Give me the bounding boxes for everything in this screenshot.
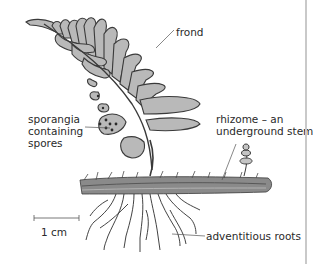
label-sporangia-2: containing xyxy=(28,125,83,137)
label-sporangia-3: spores xyxy=(28,137,63,149)
frond xyxy=(26,18,200,176)
label-rhizome-1: rhizome – an xyxy=(216,113,283,125)
label-sporangia-1: sporangia xyxy=(28,113,80,125)
page-edge-divider xyxy=(305,0,307,264)
young-frond xyxy=(240,144,252,176)
label-scale: 1 cm xyxy=(41,226,67,238)
label-frond: frond xyxy=(176,26,204,38)
rhizome-leader xyxy=(222,144,236,180)
adventitious-roots xyxy=(86,194,200,252)
label-rhizome-2: underground stem xyxy=(216,125,313,137)
scale-bar xyxy=(34,215,79,221)
frond-leader xyxy=(156,30,174,48)
fern-diagram: frond sporangia containing spores rhizom… xyxy=(0,0,316,264)
roots-leader xyxy=(172,234,205,236)
label-roots: adventitious roots xyxy=(206,230,301,242)
rhizome xyxy=(80,171,272,194)
